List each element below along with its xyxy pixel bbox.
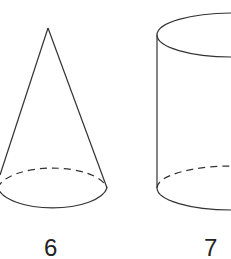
cone-shape — [0, 28, 107, 208]
figure-label-cone: 6 — [44, 236, 57, 259]
cylinder-shape — [157, 13, 231, 210]
figure-label-cylinder: 7 — [204, 236, 217, 259]
shapes-diagram — [0, 0, 231, 259]
